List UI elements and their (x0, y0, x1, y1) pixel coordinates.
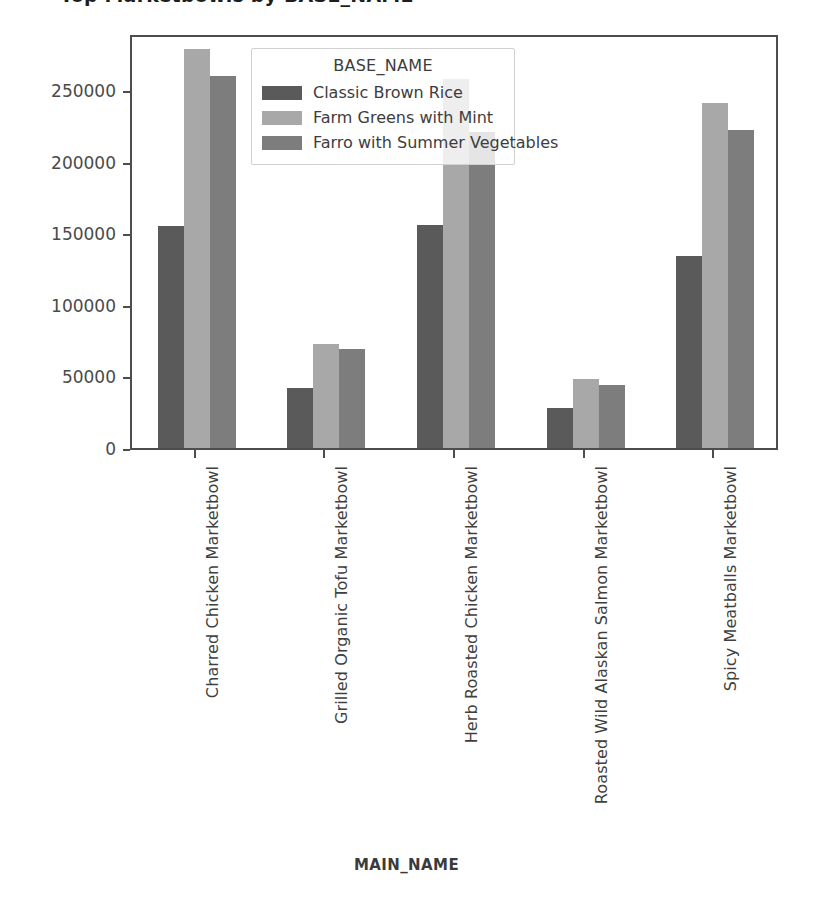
x-axis-tick-mark (583, 450, 585, 458)
x-axis-title: MAIN_NAME (0, 856, 813, 874)
bar (702, 103, 728, 448)
y-axis-tick-mark (123, 306, 130, 308)
legend-entry: Farro with Summer Vegetables (262, 130, 504, 155)
y-axis-tick-label: 200000 (51, 153, 116, 173)
legend-entry: Farm Greens with Mint (262, 105, 504, 130)
legend-swatch-icon (262, 111, 302, 125)
legend-swatch-icon (262, 136, 302, 150)
bar (210, 76, 236, 448)
x-axis-tick-mark (453, 450, 455, 458)
y-axis-tick-label: 250000 (51, 81, 116, 101)
x-axis-tick-label: Charred Chicken Marketbowl (203, 466, 222, 698)
bar-chart-figure: Top Marketbowls by BASE_NAME 05000010000… (0, 0, 813, 903)
y-axis-tick-label: 0 (105, 439, 116, 459)
y-axis-tick-label: 50000 (62, 367, 116, 387)
legend-entries: Classic Brown RiceFarm Greens with MintF… (262, 80, 504, 155)
x-axis-tick-mark (712, 450, 714, 458)
x-axis-tick-label: Grilled Organic Tofu Marketbowl (332, 466, 351, 724)
x-axis-tick-mark (194, 450, 196, 458)
legend-entry-label: Farm Greens with Mint (313, 108, 493, 127)
legend: BASE_NAME Classic Brown RiceFarm Greens … (251, 48, 515, 165)
x-axis-tick-mark (323, 450, 325, 458)
y-axis-tick-mark (123, 449, 130, 451)
x-axis-tick-label: Herb Roasted Chicken Marketbowl (462, 466, 481, 743)
bar (547, 408, 573, 448)
x-axis-tick-label: Spicy Meatballs Marketbowl (721, 466, 740, 691)
legend-entry: Classic Brown Rice (262, 80, 504, 105)
legend-swatch-icon (262, 86, 302, 100)
bar (573, 379, 599, 448)
bar (417, 225, 443, 448)
bar (676, 256, 702, 448)
y-axis-tick-mark (123, 163, 130, 165)
bar (184, 49, 210, 448)
chart-title: Top Marketbowls by BASE_NAME (60, 0, 760, 6)
bar (287, 388, 313, 448)
legend-entry-label: Farro with Summer Vegetables (313, 133, 558, 152)
bar (158, 226, 184, 448)
legend-entry-label: Classic Brown Rice (313, 83, 463, 102)
x-axis-tick-label: Roasted Wild Alaskan Salmon Marketbowl (592, 466, 611, 804)
bar (313, 344, 339, 448)
bar (728, 130, 754, 448)
legend-title: BASE_NAME (262, 56, 504, 75)
y-axis-tick-mark (123, 234, 130, 236)
y-axis-tick-mark (123, 91, 130, 93)
bar (339, 349, 365, 448)
y-axis-tick-label: 100000 (51, 296, 116, 316)
bar (469, 132, 495, 448)
y-axis-tick-label: 150000 (51, 224, 116, 244)
y-axis-tick-mark (123, 377, 130, 379)
bar (599, 385, 625, 448)
